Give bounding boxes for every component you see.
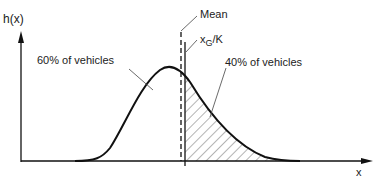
y-axis-arrow <box>18 31 24 43</box>
hatched-area <box>75 67 300 161</box>
x-axis-label: x <box>356 166 362 178</box>
y-axis-label: h(x) <box>3 12 24 26</box>
x-axis-arrow <box>361 158 373 164</box>
threshold-label: xG/K <box>200 33 223 48</box>
right-area-label: 40% of vehicles <box>225 56 302 68</box>
left-area-label: 60% of vehicles <box>37 54 114 66</box>
diagram-canvas <box>0 0 383 185</box>
mean-label: Mean <box>200 8 228 20</box>
